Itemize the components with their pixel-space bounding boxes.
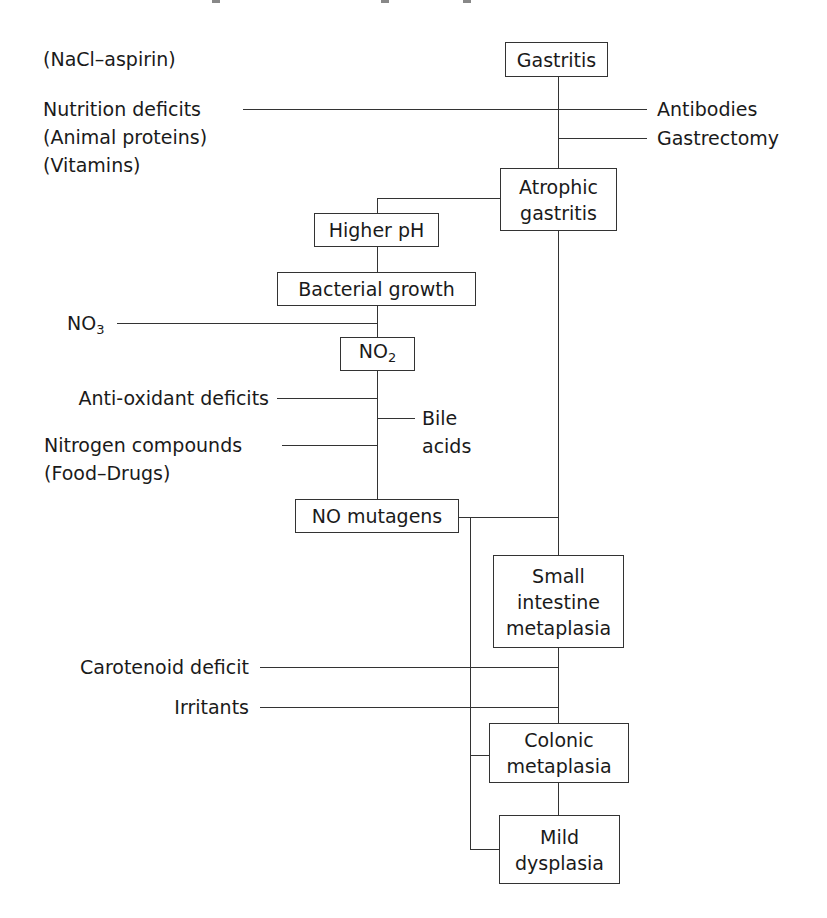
edge-atrophic-higher-ph-h bbox=[377, 198, 500, 199]
node-atrophic-gastritis: Atrophic gastritis bbox=[500, 168, 617, 231]
node-label: NO mutagens bbox=[312, 503, 443, 529]
edge-mutagens-colonic bbox=[470, 755, 489, 756]
node-mild-dysplasia: Mild dysplasia bbox=[499, 815, 620, 884]
input-nutrition-deficits: Nutrition deficits (Animal proteins) (Vi… bbox=[43, 95, 207, 179]
input-nitrogen-compounds: Nitrogen compounds (Food–Drugs) bbox=[44, 431, 242, 487]
edge-carotenoid bbox=[260, 667, 558, 668]
input-irritants: Irritants bbox=[20, 693, 249, 721]
input-antibodies: Antibodies bbox=[657, 95, 757, 123]
edge-no2-mutagens bbox=[377, 371, 378, 499]
edge-irritants bbox=[260, 707, 558, 708]
edge-gastritis-atrophic bbox=[558, 77, 559, 168]
node-no2: NO2 bbox=[340, 337, 415, 371]
cutoff-text-fragment bbox=[212, 0, 220, 3]
edge-mutagens-dysplasia bbox=[470, 849, 499, 850]
no2-subscript: 2 bbox=[388, 350, 396, 365]
node-label: Higher pH bbox=[329, 217, 425, 243]
edge-nitrogen bbox=[282, 445, 377, 446]
cutoff-text-fragment bbox=[463, 0, 471, 3]
node-label: Colonic metaplasia bbox=[506, 727, 611, 779]
node-no-mutagens: NO mutagens bbox=[295, 499, 459, 533]
edge-bacterial-no2 bbox=[377, 306, 378, 337]
node-label: Atrophic gastritis bbox=[519, 174, 598, 226]
node-small-intestine-metaplasia: Small intestine metaplasia bbox=[493, 555, 624, 648]
cutoff-text-fragment bbox=[381, 0, 389, 3]
edge-atrophic-higher-ph-v bbox=[377, 198, 378, 213]
node-label: NO2 bbox=[359, 338, 396, 371]
node-gastritis: Gastritis bbox=[505, 42, 608, 77]
edge-mutagens-branch bbox=[470, 517, 471, 849]
edge-no3 bbox=[117, 323, 377, 324]
input-carotenoid-deficit: Carotenoid deficit bbox=[20, 653, 249, 681]
edge-small-intestine-colonic bbox=[558, 648, 559, 723]
input-no3: NO3 bbox=[67, 309, 104, 344]
node-label: Gastritis bbox=[517, 47, 596, 73]
edge-atrophic-small-intestine bbox=[558, 231, 559, 555]
no2-base: NO bbox=[359, 340, 388, 362]
node-label: Small intestine metaplasia bbox=[506, 563, 611, 641]
node-label: Mild dysplasia bbox=[515, 824, 604, 876]
edge-gastrectomy bbox=[558, 138, 647, 139]
no3-subscript: 3 bbox=[96, 322, 104, 337]
input-bile-acids: Bile acids bbox=[422, 404, 471, 460]
input-nacl-aspirin: (NaCl–aspirin) bbox=[43, 45, 176, 73]
node-colonic-metaplasia: Colonic metaplasia bbox=[489, 723, 629, 783]
input-antioxidant-deficits: Anti-oxidant deficits bbox=[20, 384, 269, 412]
node-label: Bacterial growth bbox=[298, 276, 454, 302]
input-gastrectomy: Gastrectomy bbox=[657, 124, 779, 152]
edge-higher-ph-bacterial bbox=[377, 247, 378, 272]
no3-base: NO bbox=[67, 312, 96, 334]
node-bacterial-growth: Bacterial growth bbox=[277, 272, 476, 306]
edge-mutagens-spine bbox=[459, 517, 558, 518]
edge-colonic-dysplasia bbox=[558, 783, 559, 815]
edge-nutrition-antibodies bbox=[243, 109, 647, 110]
node-higher-ph: Higher pH bbox=[314, 213, 439, 247]
edge-bile-acids bbox=[377, 418, 415, 419]
diagram-canvas: Gastritis Atrophic gastritis Higher pH B… bbox=[0, 0, 827, 918]
edge-antioxidant bbox=[277, 398, 377, 399]
